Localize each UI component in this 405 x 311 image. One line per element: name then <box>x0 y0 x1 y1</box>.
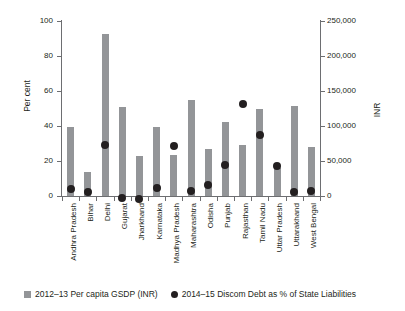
scatter-point <box>67 185 75 193</box>
chart-figure: Per cent INR 020406080100 050,000100,000… <box>0 0 405 311</box>
bar <box>188 100 195 196</box>
bar <box>102 34 109 196</box>
bar <box>256 109 263 196</box>
x-axis-line <box>61 196 321 197</box>
bar <box>291 106 298 197</box>
x-axis-category-label: Delhi <box>104 203 112 221</box>
bar <box>136 156 143 196</box>
y-axis-right-tick-label: 200,000 <box>327 52 356 60</box>
y-axis-left-tick <box>57 91 61 92</box>
bar <box>274 168 281 196</box>
x-axis-category-label: Uttarakhand <box>293 203 301 247</box>
x-axis-tick <box>303 197 304 201</box>
y-axis-right-tick <box>321 91 325 92</box>
y-axis-left-title: Per cent <box>22 80 32 112</box>
x-axis-tick <box>217 197 218 201</box>
scatter-point <box>290 188 298 196</box>
y-axis-left-title-wrap: Per cent <box>22 96 32 106</box>
legend-item-label: 2014–15 Discom Debt as % of State Liabil… <box>182 289 356 299</box>
y-axis-right-tick <box>321 161 325 162</box>
scatter-point <box>221 161 229 169</box>
bar <box>119 107 126 196</box>
scatter-point <box>187 187 195 195</box>
x-axis-tick <box>148 197 149 201</box>
x-axis-tick <box>114 197 115 201</box>
legend-bar-swatch-icon <box>24 291 31 298</box>
y-axis-right-tick-label: 50,000 <box>327 157 351 165</box>
scatter-point <box>84 188 92 196</box>
plot-area <box>62 21 320 196</box>
scatter-point <box>307 187 315 195</box>
y-axis-left-tick-label: 0 <box>0 192 53 200</box>
y-axis-right-tick-label: 100,000 <box>327 122 356 130</box>
y-axis-right-line <box>320 20 321 197</box>
scatter-point <box>101 141 109 149</box>
legend-item: 2014–15 Discom Debt as % of State Liabil… <box>171 289 356 299</box>
y-axis-right-tick <box>321 196 325 197</box>
y-axis-left-tick-label: 100 <box>0 17 53 25</box>
y-axis-right-tick-label: 250,000 <box>327 17 356 25</box>
scatter-point <box>170 142 178 150</box>
y-axis-left-tick-label: 80 <box>0 52 53 60</box>
y-axis-right-title-wrap: INR <box>372 110 382 120</box>
scatter-point <box>135 195 143 203</box>
scatter-point <box>239 100 247 108</box>
y-axis-right-tick <box>321 126 325 127</box>
x-axis-category-label: Rajasthan <box>242 203 250 239</box>
y-axis-left-tick-label: 40 <box>0 122 53 130</box>
bar <box>239 145 246 196</box>
y-axis-right-tick-label: 0 <box>327 192 331 200</box>
x-axis-category-label: Maharashtra <box>190 203 198 248</box>
scatter-point <box>256 131 264 139</box>
x-axis-tick <box>268 197 269 201</box>
x-axis-category-label: Karnataka <box>156 203 164 239</box>
y-axis-right-title: INR <box>372 103 382 118</box>
scatter-point <box>273 162 281 170</box>
x-axis-category-label: Jharkhand <box>138 203 146 240</box>
x-axis-category-label: Odisha <box>207 203 215 228</box>
x-axis-tick <box>200 197 201 201</box>
legend-item: 2012–13 Per capita GSDP (INR) <box>24 289 158 299</box>
y-axis-left-tick <box>57 126 61 127</box>
scatter-point <box>204 181 212 189</box>
bar <box>222 122 229 196</box>
x-axis-tick <box>182 197 183 201</box>
x-axis-tick <box>62 197 63 201</box>
x-axis-category-label: Uttar Pradesh <box>276 203 284 252</box>
y-axis-left-tick-label: 60 <box>0 87 53 95</box>
scatter-point <box>118 194 126 202</box>
x-axis-tick <box>165 197 166 201</box>
x-axis-tick <box>234 197 235 201</box>
x-axis-tick <box>131 197 132 201</box>
x-axis-category-label: Gujarat <box>121 203 129 229</box>
y-axis-left-tick <box>57 196 61 197</box>
legend-item-label: 2012–13 Per capita GSDP (INR) <box>35 289 158 299</box>
x-axis-tick <box>320 197 321 201</box>
x-axis-tick <box>251 197 252 201</box>
x-axis-category-label: Andhra Pradesh <box>70 203 78 261</box>
x-axis-category-label: Tamil Nadu <box>259 203 267 243</box>
bar <box>170 155 177 196</box>
x-axis-tick <box>96 197 97 201</box>
x-axis-category-label: West Bengal <box>310 203 318 248</box>
y-axis-right-tick <box>321 56 325 57</box>
y-axis-right-tick <box>321 21 325 22</box>
y-axis-left-tick-label: 20 <box>0 157 53 165</box>
x-axis-tick <box>79 197 80 201</box>
y-axis-left-tick <box>57 21 61 22</box>
y-axis-left-tick <box>57 56 61 57</box>
y-axis-right-tick-label: 150,000 <box>327 87 356 95</box>
x-axis-category-label: Punjab <box>224 203 232 228</box>
x-axis-category-label: Bihar <box>87 203 95 222</box>
x-axis-tick <box>286 197 287 201</box>
chart-legend: 2012–13 Per capita GSDP (INR)2014–15 Dis… <box>24 289 365 299</box>
x-axis-category-label: Madhya Pradesh <box>173 203 181 263</box>
y-axis-left-tick <box>57 161 61 162</box>
legend-dot-swatch-icon <box>171 291 178 298</box>
scatter-point <box>153 184 161 192</box>
